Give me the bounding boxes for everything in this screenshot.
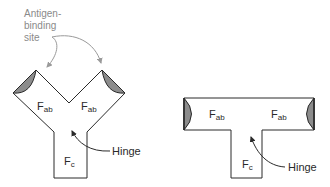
hinge-label: Hinge	[288, 161, 317, 173]
t-shape-antibody: Fab Fab Fc Hinge	[184, 98, 317, 178]
annotation-arrow-right-icon	[52, 36, 101, 63]
antigen-binding-site-label: Antigen- binding site	[24, 8, 61, 43]
antibody-diagram: Antigen- binding site Fab Fab Fc Hinge F…	[0, 0, 330, 187]
svg-text:binding: binding	[24, 20, 56, 31]
hinge-label: Hinge	[112, 145, 141, 157]
svg-text:site: site	[24, 32, 40, 43]
y-shape-antibody: Fab Fab Fc Hinge	[13, 70, 141, 178]
svg-text:Antigen-: Antigen-	[24, 8, 61, 19]
annotation-arrow-left-icon	[47, 37, 57, 67]
